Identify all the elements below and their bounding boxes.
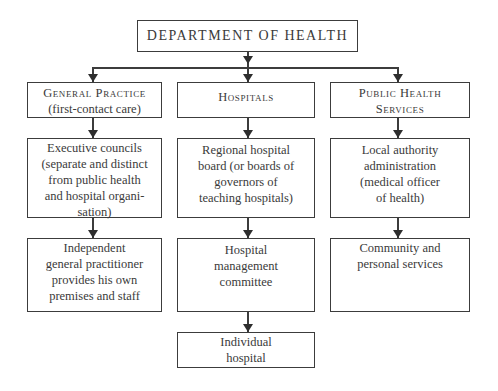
gp-arrow-1-icon: [88, 130, 98, 138]
executive-councils-label: Executive councils (separate and distinc…: [41, 139, 147, 220]
general-practice-title: General Practice: [43, 83, 146, 101]
ph-arrow-2-icon: [393, 230, 403, 238]
hospitals-box: Hospitals: [177, 82, 315, 118]
arrow-hospitals-icon: [243, 74, 253, 82]
arrow-general-practice-icon: [88, 74, 98, 82]
executive-councils-box: Executive councils (separate and distinc…: [27, 138, 162, 218]
independent-gp-box: Independent general practitioner provide…: [27, 238, 162, 312]
hosp-arrow-3-icon: [243, 324, 253, 332]
gp-arrow-2-icon: [88, 230, 98, 238]
hospitals-title: Hospitals: [218, 83, 274, 105]
independent-gp-label: Independent general practitioner provide…: [46, 239, 144, 304]
hosp-arrow-2-icon: [243, 230, 253, 238]
local-authority-label: Local authority administration (medical …: [360, 139, 440, 206]
arrow-public-health-icon: [393, 74, 403, 82]
community-personal-services-box: Community and personal services: [330, 238, 470, 312]
department-of-health-label: DEPARTMENT OF HEALTH: [147, 28, 348, 44]
root-arrow-icon: [243, 56, 253, 64]
public-health-services-box: Public Health Services: [330, 82, 470, 118]
public-health-services-title: Public Health Services: [359, 83, 442, 117]
regional-hospital-board-box: Regional hospital board (or boards of go…: [177, 138, 315, 218]
individual-hospital-label: Individual hospital: [220, 333, 271, 366]
regional-hospital-board-label: Regional hospital board (or boards of go…: [198, 139, 294, 206]
department-of-health-box: DEPARTMENT OF HEALTH: [137, 20, 358, 52]
hospital-management-committee-box: Hospital management committee: [177, 238, 315, 312]
horizontal-branch-line: [92, 67, 398, 69]
ph-arrow-1-icon: [393, 130, 403, 138]
individual-hospital-box: Individual hospital: [177, 332, 315, 368]
general-practice-box: General Practice (first-contact care): [27, 82, 162, 118]
hospital-management-committee-label: Hospital management committee: [214, 239, 278, 290]
hosp-arrow-1-icon: [243, 130, 253, 138]
general-practice-subtitle: (first-contact care): [48, 101, 141, 117]
local-authority-box: Local authority administration (medical …: [330, 138, 470, 218]
community-personal-services-label: Community and personal services: [357, 239, 443, 272]
